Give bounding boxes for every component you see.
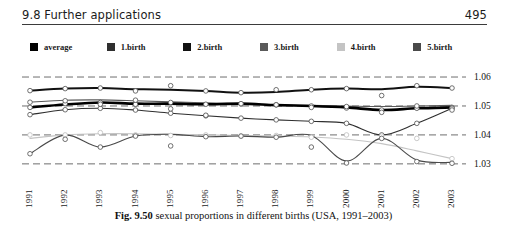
data-point-marker <box>168 107 173 112</box>
data-point-marker <box>344 133 349 138</box>
data-point-marker <box>415 104 420 109</box>
data-point-marker <box>168 144 173 149</box>
data-point-marker <box>168 100 173 105</box>
header-rule <box>22 24 487 25</box>
data-point-marker <box>204 102 209 107</box>
y-tick-label: 1.06 <box>474 72 491 82</box>
chart-legend: average1.birth2.birth3.birth4.birth5.bir… <box>30 40 490 54</box>
x-tick-label-2001: 2001 <box>376 189 386 208</box>
data-point-marker <box>28 133 33 138</box>
data-point-marker <box>415 136 420 141</box>
chart-plot-area: 1.061.051.041.03 <box>0 58 507 180</box>
x-tick-label-1996: 1996 <box>200 189 210 208</box>
data-point-marker <box>133 98 138 103</box>
data-point-marker <box>415 83 420 88</box>
data-point-marker <box>239 90 244 95</box>
data-point-marker <box>379 110 384 115</box>
y-tick-label: 1.05 <box>474 101 491 111</box>
legend-label: 5.birth <box>427 42 452 52</box>
data-point-marker <box>274 118 279 123</box>
data-point-marker <box>239 101 244 106</box>
x-tick-label-1998: 1998 <box>270 189 280 208</box>
data-point-marker <box>63 133 68 138</box>
data-point-marker <box>63 137 68 142</box>
x-tick-label-2003: 2003 <box>446 189 456 208</box>
page-header: 9.8 Further applications 495 <box>22 8 487 30</box>
y-tick-label: 1.04 <box>474 130 491 140</box>
data-point-marker <box>204 134 209 139</box>
data-point-marker <box>309 87 314 92</box>
x-tick-label-1994: 1994 <box>130 189 140 208</box>
legend-swatch-icon <box>107 43 115 51</box>
data-point-marker <box>309 119 314 124</box>
data-point-marker <box>274 103 279 108</box>
x-tick-label-1995: 1995 <box>165 189 175 208</box>
data-point-marker <box>98 145 103 150</box>
data-point-marker <box>28 112 33 117</box>
section-title: 9.8 Further applications <box>22 8 161 22</box>
data-point-marker <box>63 86 68 91</box>
legend-label: 2.birth <box>197 42 222 52</box>
series-line-1-birth <box>30 108 452 135</box>
data-point-marker <box>274 87 279 92</box>
legend-swatch-icon <box>260 43 268 51</box>
data-point-marker <box>28 88 33 93</box>
legend-swatch-icon <box>30 43 38 51</box>
data-point-marker <box>239 134 244 139</box>
data-point-marker <box>28 105 33 110</box>
x-tick-label-1992: 1992 <box>59 189 69 208</box>
legend-item-2-birth: 2.birth <box>183 42 260 52</box>
figure-caption: Fig. 9.50 sexual proportions in differen… <box>0 210 507 221</box>
data-point-marker <box>63 107 68 112</box>
data-point-marker <box>204 89 209 94</box>
legend-item-3-birth: 3.birth <box>260 42 337 52</box>
data-point-marker <box>133 108 138 113</box>
legend-item-5-birth: 5.birth <box>413 42 490 52</box>
data-point-marker <box>379 93 384 98</box>
line-chart-svg: 1.061.051.041.03 <box>0 58 507 180</box>
data-point-marker <box>344 121 349 126</box>
data-point-marker <box>98 86 103 91</box>
x-axis-tick-labels: 1991199219931994199519961997199819992000… <box>0 178 507 208</box>
data-point-marker <box>98 130 103 135</box>
data-point-marker <box>133 89 138 94</box>
data-point-marker <box>309 105 314 110</box>
legend-label: 4.birth <box>351 42 376 52</box>
data-point-marker <box>344 161 349 166</box>
data-point-marker <box>239 116 244 121</box>
data-point-marker <box>415 121 420 126</box>
data-point-marker <box>63 98 68 103</box>
x-tick-label-1993: 1993 <box>94 189 104 208</box>
data-point-marker <box>344 104 349 109</box>
page-number: 495 <box>465 8 487 22</box>
legend-label: 3.birth <box>274 42 299 52</box>
data-point-marker <box>344 86 349 91</box>
data-point-marker <box>168 83 173 88</box>
legend-item-4-birth: 4.birth <box>337 42 414 52</box>
data-point-marker <box>379 136 384 141</box>
legend-label: 1.birth <box>121 42 146 52</box>
legend-swatch-icon <box>337 43 345 51</box>
data-point-marker <box>133 134 138 139</box>
data-point-marker <box>450 161 455 166</box>
x-tick-label-1991: 1991 <box>24 189 34 208</box>
data-point-marker <box>274 135 279 140</box>
legend-swatch-icon <box>413 43 421 51</box>
x-tick-label-1999: 1999 <box>305 189 315 208</box>
x-tick-label-2000: 2000 <box>341 189 351 208</box>
y-tick-label: 1.03 <box>474 159 491 169</box>
data-point-marker <box>204 113 209 118</box>
data-point-marker <box>98 102 103 107</box>
figure-caption-text: sexual proportions in different births (… <box>155 210 392 221</box>
data-point-marker <box>28 100 33 105</box>
data-point-marker <box>415 159 420 164</box>
data-point-marker <box>450 156 455 161</box>
data-point-marker <box>309 135 314 140</box>
legend-label: average <box>44 42 72 52</box>
legend-swatch-icon <box>183 43 191 51</box>
legend-item-average: average <box>30 42 107 52</box>
data-point-marker <box>168 111 173 116</box>
x-tick-label-1997: 1997 <box>235 189 245 208</box>
data-point-marker <box>450 108 455 113</box>
data-point-marker <box>450 86 455 91</box>
